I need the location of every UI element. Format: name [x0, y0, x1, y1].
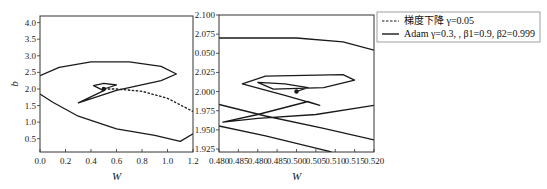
x-tick-label: 0.2	[60, 156, 71, 166]
y-tick-label: 1.950	[195, 125, 216, 135]
x-tick-label: 0.485	[267, 156, 288, 166]
x-tick-label: 1.2	[187, 156, 198, 166]
x-tick-label: 0.4	[85, 156, 97, 166]
y-tick-label: 3.0	[25, 51, 37, 61]
y-tick-label: 3.5	[25, 34, 37, 44]
x-tick-label: 1.0	[162, 156, 174, 166]
y-tick-label: 2.000	[195, 87, 216, 97]
x-tick-label: 0.480	[209, 156, 230, 166]
y-tick-label: 0.050	[195, 48, 216, 58]
x-tick-label: 0.505	[306, 156, 327, 166]
right-plot: 0.4800.4850.4800.4850.5000.5050.5100.515…	[195, 10, 385, 182]
x-axis-label: W	[292, 170, 302, 182]
x-tick-label: 0.515	[345, 156, 366, 166]
y-tick-label: 1.5	[25, 101, 37, 111]
y-tick-label: 1.975	[195, 106, 216, 116]
x-tick-label: 0.8	[136, 156, 148, 166]
y-tick-label: 2.025	[195, 67, 216, 77]
x-tick-label: 0.520	[364, 156, 385, 166]
y-axis-label: b	[8, 81, 20, 87]
y-tick-label: 2.075	[195, 29, 216, 39]
x-tick-label: 0.480	[248, 156, 269, 166]
x-tick-label: 0.500	[286, 156, 307, 166]
left-plot: 0.00.20.40.60.81.01.20.51.01.52.02.53.03…	[8, 16, 199, 182]
series-group	[40, 62, 193, 142]
y-tick-label: 2.100	[195, 10, 216, 20]
adam-path	[219, 38, 374, 152]
x-tick-label: 0.510	[325, 156, 346, 166]
legend: 梯度下降 γ=0.05 Adam γ=0.3, , β1=0.9, β2=0.9…	[377, 12, 540, 42]
y-tick-label: 4.0	[25, 18, 37, 28]
convergence-point	[102, 87, 106, 91]
x-tick-label: 0.0	[34, 156, 46, 166]
axes-frame	[40, 16, 193, 152]
y-tick-label: 2.5	[25, 67, 37, 77]
y-tick-label: 2.0	[25, 84, 37, 94]
x-tick-label: 0.6	[111, 156, 123, 166]
series-group	[219, 38, 374, 152]
gradient-descent-path	[104, 89, 193, 112]
y-tick-label: 0.5	[25, 134, 37, 144]
adam-path	[40, 62, 193, 142]
x-axis-label: W	[112, 170, 122, 182]
chart-figure: 0.00.20.40.60.81.01.20.51.01.52.02.53.03…	[0, 0, 547, 189]
legend-label-adam: Adam γ=0.3, , β1=0.9, β2=0.999	[404, 28, 535, 39]
y-tick-label: 1.0	[25, 117, 37, 127]
y-tick-label: 1.925	[195, 144, 216, 154]
legend-label-gradient-descent: 梯度下降 γ=0.05	[404, 14, 474, 26]
convergence-point	[294, 89, 298, 93]
x-tick-label: 0.485	[228, 156, 249, 166]
